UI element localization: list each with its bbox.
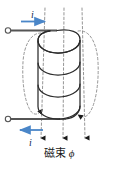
flux-caption: 磁束ϕ (0, 148, 119, 159)
flux-symbol: ϕ (67, 147, 75, 159)
current-label-bottom: i (29, 138, 32, 148)
current-label-top: i (31, 10, 34, 20)
coil-turn-4 (38, 62, 80, 97)
solenoid-flux-figure: i i 磁束ϕ (0, 0, 119, 173)
coil-turn-5 (38, 84, 80, 119)
solenoid-coil (38, 30, 80, 119)
top-terminal (5, 28, 10, 33)
flux-caption-text: 磁束 (44, 147, 67, 160)
coil-turn-3 (38, 41, 80, 76)
bottom-terminal (5, 116, 10, 121)
flux-loop-right (78, 31, 98, 117)
flux-line-3 (82, 8, 85, 138)
exterior-flux-loops (23, 31, 98, 117)
